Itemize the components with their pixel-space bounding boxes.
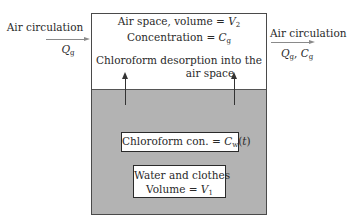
- inflow-label-text: Air circulation: [7, 21, 83, 33]
- desorption-label-1: Chloroform desorption into the: [92, 54, 266, 66]
- desorption-text-2: air space: [186, 67, 234, 79]
- air-space-volume: Air space, volume = V2: [92, 15, 266, 27]
- outflow-variables: Qg, Cg: [281, 47, 313, 59]
- desorption-text-1: Chloroform desorption into the: [96, 54, 262, 66]
- inflow-var: Q: [61, 43, 70, 55]
- air-conc-sub: g: [227, 37, 231, 45]
- inflow-var-sub: g: [70, 49, 74, 57]
- desorption-label-2: air space: [150, 67, 270, 79]
- air-conc-var: C: [219, 31, 227, 43]
- outflow-label-text: Air circulation: [270, 27, 346, 39]
- water-clothes-label: Water and clothes: [134, 169, 225, 181]
- outflow-label: Air circulation: [270, 27, 346, 39]
- air-concentration: Concentration = Cg: [92, 31, 266, 43]
- inflow-arrow-head-icon: [84, 37, 90, 41]
- water-volume-sub: 1: [208, 189, 212, 197]
- air-volume-sub: 2: [236, 21, 240, 29]
- outflow-arrow-head-icon: [309, 40, 315, 44]
- water-conc-var: C: [224, 135, 232, 147]
- outflow-var2-sub: g: [309, 53, 313, 61]
- inflow-label: Air circulation: [2, 21, 88, 33]
- outflow-var2: C: [301, 47, 309, 59]
- water-volume-line: Volume = V1: [134, 183, 225, 195]
- outflow-var1: Q: [281, 47, 290, 59]
- chloroform-concentration-box: Chloroform con. = Cw(t): [121, 132, 239, 152]
- water-conc-paren-close: ): [247, 135, 251, 147]
- outflow-arrow-line: [271, 42, 309, 43]
- air-volume-var: V: [228, 15, 236, 27]
- water-volume-prefix: Volume =: [146, 183, 201, 195]
- desorption-arrow-left-line: [125, 78, 127, 105]
- inflow-arrow-line: [46, 39, 84, 40]
- water-conc-prefix: Chloroform con. =: [122, 135, 224, 147]
- outflow-sep: ,: [294, 47, 301, 59]
- water-clothes-volume-box: Water and clothes Volume = V1: [133, 165, 226, 198]
- inflow-variable: Qg: [46, 43, 90, 55]
- air-volume-prefix: Air space, volume =: [118, 15, 228, 27]
- desorption-arrow-right-line: [234, 78, 236, 105]
- air-conc-prefix: Concentration =: [127, 31, 219, 43]
